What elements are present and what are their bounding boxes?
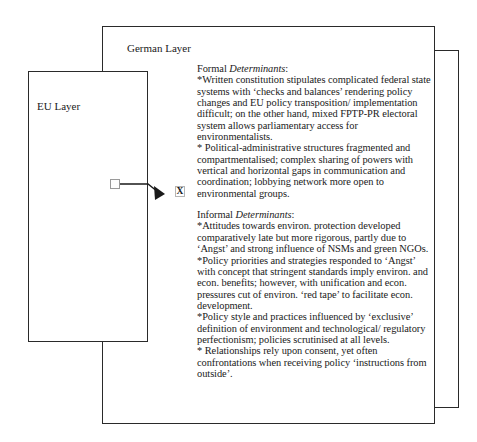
section-gap [197, 199, 433, 209]
x-marker: X [175, 186, 185, 197]
informal-determinants-heading: Informal Determinants: [197, 209, 433, 220]
informal-item: * Relationships rely upon consent, yet o… [197, 345, 433, 379]
informal-heading-suffix: : [291, 209, 294, 220]
eu-layer-box: EU Layer [28, 71, 148, 342]
informal-heading-italic: Determinants [236, 209, 292, 220]
formal-determinants-heading: Formal Determinants: [197, 63, 433, 74]
informal-heading-prefix: Informal [197, 209, 236, 220]
german-layer-box: German Layer Formal Determinants: *Writt… [102, 26, 435, 424]
determinants-content: Formal Determinants: *Written constituti… [197, 63, 433, 379]
formal-heading-italic: Determinants [229, 63, 285, 74]
formal-heading-suffix: : [285, 63, 288, 74]
formal-item: * Political-administrative structures fr… [197, 142, 433, 199]
informal-item: *Attitudes towards environ. protection d… [197, 220, 433, 254]
informal-item: *Policy priorities and strategies respon… [197, 255, 433, 312]
source-node-square [110, 179, 120, 189]
formal-heading-prefix: Formal [197, 63, 229, 74]
informal-item: *Policy style and practices influenced b… [197, 311, 433, 345]
german-layer-title: German Layer [127, 42, 191, 54]
formal-item: *Written constitution stipulates complic… [197, 74, 433, 142]
eu-layer-title: EU Layer [37, 100, 80, 112]
